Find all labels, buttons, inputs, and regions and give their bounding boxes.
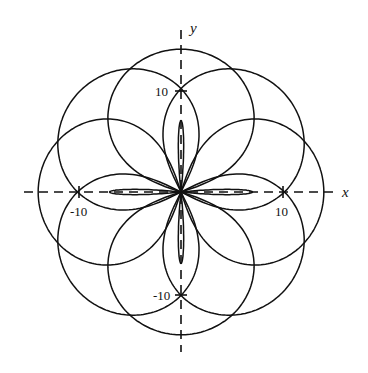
x-tick-label-pos: 10 bbox=[275, 204, 288, 219]
y-tick-label-neg: -10 bbox=[153, 288, 170, 303]
polar-plot: x y 10 -10 10 -10 bbox=[0, 0, 368, 373]
x-tick-label-neg: -10 bbox=[70, 204, 87, 219]
y-tick-label-pos: 10 bbox=[155, 84, 168, 99]
y-axis-label: y bbox=[188, 20, 197, 36]
x-axis-label: x bbox=[341, 184, 349, 200]
